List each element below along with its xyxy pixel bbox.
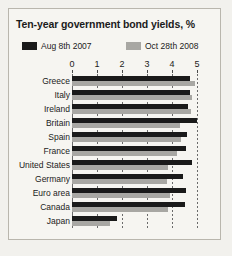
bar-ireland-series-1 (72, 109, 191, 114)
bar-japan-series-0 (72, 216, 117, 221)
category-label: Greece (42, 76, 70, 86)
x-tick-label: 4 (169, 59, 174, 69)
bar-france-series-0 (72, 146, 186, 151)
bar-euro-area-series-0 (72, 188, 186, 193)
bar-italy-series-1 (72, 95, 192, 100)
bar-greece-series-1 (72, 81, 195, 86)
category-label: Ireland (44, 104, 70, 114)
bar-spain-series-1 (72, 137, 181, 142)
chart-figure: Ten-year government bond yields, % Aug 8… (0, 0, 232, 256)
x-tick-label: 1 (94, 59, 99, 69)
x-tick-mark (72, 70, 73, 73)
x-tick-mark (97, 70, 98, 73)
x-tick-mark (122, 70, 123, 73)
bar-canada-series-0 (72, 202, 185, 207)
category-label: France (44, 146, 70, 156)
category-label: United States (19, 160, 70, 170)
legend-label-oct-2008: Oct 28th 2008 (145, 41, 198, 51)
x-tick-label: 0 (69, 59, 74, 69)
category-axis: GreeceItalyIrelandBritainSpainFranceUnit… (10, 74, 70, 228)
category-label: Canada (40, 202, 70, 212)
bar-spain-series-0 (72, 132, 187, 137)
gridline (197, 74, 198, 228)
legend-entry-aug-2007: Aug 8th 2007 (22, 40, 92, 51)
category-label: Spain (48, 132, 70, 142)
x-tick-mark (197, 70, 198, 73)
x-tick-label: 3 (144, 59, 149, 69)
legend-swatch-oct-2008 (126, 42, 141, 50)
bar-italy-series-0 (72, 90, 190, 95)
legend-swatch-aug-2007 (22, 42, 37, 50)
bar-germany-series-0 (72, 174, 183, 179)
x-tick-label: 2 (119, 59, 124, 69)
legend-label-aug-2007: Aug 8th 2007 (41, 41, 92, 51)
bar-united-states-series-0 (72, 160, 192, 165)
bar-ireland-series-0 (72, 104, 188, 109)
legend-entry-oct-2008: Oct 28th 2008 (126, 40, 198, 51)
bar-france-series-1 (72, 151, 177, 156)
bar-canada-series-1 (72, 207, 168, 212)
category-label: Britain (46, 118, 70, 128)
x-tick-mark (147, 70, 148, 73)
bar-britain-series-0 (72, 118, 197, 123)
bar-euro-area-series-1 (72, 193, 170, 198)
bar-germany-series-1 (72, 179, 167, 184)
category-label: Japan (47, 216, 70, 226)
category-label: Euro area (33, 188, 70, 198)
category-label: Germany (35, 174, 70, 184)
x-tick-mark (172, 70, 173, 73)
category-label: Italy (54, 90, 70, 100)
bar-britain-series-1 (72, 123, 180, 128)
plot-area (72, 74, 197, 228)
bar-united-states-series-1 (72, 165, 168, 170)
x-tick-label: 5 (194, 59, 199, 69)
chart-title: Ten-year government bond yields, % (16, 18, 216, 30)
bar-japan-series-1 (72, 221, 110, 226)
x-axis: 012345 (72, 59, 197, 72)
bar-greece-series-0 (72, 76, 190, 81)
